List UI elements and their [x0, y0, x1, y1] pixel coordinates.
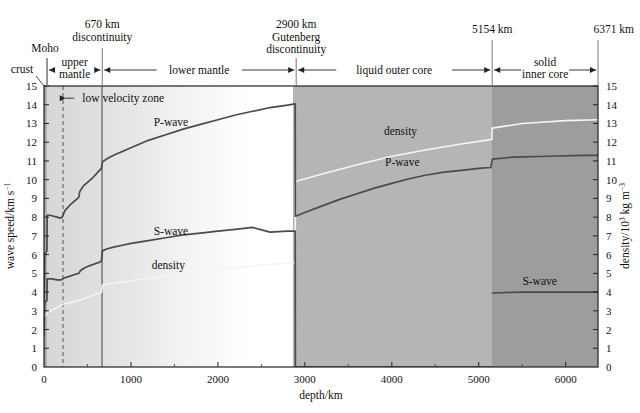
y-tick-label-right: 2	[606, 324, 612, 336]
zone-label-liquid-outer-core: liquid outer core	[356, 64, 432, 77]
x-axis-title: depth/km	[299, 389, 342, 402]
y-axis-title-left: wave speed/km s−1	[3, 182, 17, 269]
annotation-density-label-mantle: density	[152, 259, 185, 272]
zone-label-crust: crust	[11, 63, 34, 75]
y-tick-label-right: 3	[606, 305, 612, 317]
seismic-velocity-figure: 0123456789101112131415 01234567891011121…	[0, 0, 640, 413]
y-tick-label-left: 9	[32, 192, 38, 204]
y-tick-label-left: 11	[26, 155, 37, 167]
y-tick-label-left: 15	[26, 80, 38, 92]
zone-label-upper-mantle: mantle	[59, 68, 90, 80]
y-tick-label-right: 11	[606, 155, 617, 167]
y-tick-label-left: 13	[26, 117, 38, 129]
svg-text:wave speed/km s−1: wave speed/km s−1	[3, 182, 17, 269]
header-annotations: Moho670 kmdiscontinuity2900 kmGutenbergd…	[11, 18, 634, 86]
depth-label-gutenberg: 2900 km	[276, 18, 317, 30]
y-tick-label-right: 0	[606, 361, 612, 373]
x-tick-label: 4000	[381, 373, 404, 385]
x-tick-label: 5000	[468, 373, 491, 385]
y-tick-label-right: 4	[606, 286, 612, 298]
y-axis-title-right: density/103 kg m−3	[618, 183, 632, 269]
y-tick-label-left: 3	[32, 305, 38, 317]
annotation-p-wave-label-mantle: P-wave	[154, 116, 189, 128]
annotation-density-label-core: density	[384, 125, 417, 138]
crust-leader-line	[36, 76, 44, 86]
annotation-s-wave-label-core: S-wave	[522, 275, 557, 287]
x-tick-label: 2000	[207, 373, 230, 385]
y-tick-label-left: 6	[32, 249, 38, 261]
zone-backgrounds	[44, 86, 598, 367]
y-tick-label-left: 12	[26, 136, 37, 148]
y-tick-label-left: 7	[32, 230, 38, 242]
y-tick-label-right: 13	[606, 117, 618, 129]
y-tick-label-right: 1	[606, 342, 612, 354]
y-tick-label-left: 8	[32, 211, 38, 223]
depth-label-gutenberg: Gutenberg	[272, 31, 321, 44]
y-tick-label-left: 5	[32, 267, 38, 279]
annotation-s-wave-label-mantle: S-wave	[154, 225, 189, 237]
y-tick-label-right: 7	[606, 230, 612, 242]
depth-label-earth-radius: 6371 km	[593, 23, 634, 35]
depth-label-discontinuity-670: discontinuity	[72, 31, 132, 44]
y-tick-label-right: 9	[606, 192, 612, 204]
depth-label-inner-core-boundary: 5154 km	[472, 23, 513, 35]
zone-label-lower-mantle: lower mantle	[169, 64, 229, 76]
inner-core-band	[492, 86, 598, 367]
y-tick-label-left: 0	[32, 361, 38, 373]
x-tick-label: 1000	[120, 373, 143, 385]
y-axis-title-left-text: wave speed/km s	[4, 190, 17, 269]
figure-canvas: 0123456789101112131415 01234567891011121…	[0, 0, 640, 413]
zone-label-solid-inner-core: solid	[534, 56, 557, 68]
y-tick-label-left: 14	[26, 99, 38, 111]
depth-label-moho: Moho	[31, 42, 59, 54]
zone-label-solid-inner-core: inner core	[522, 68, 568, 80]
y-axis-title-right-sup2: −3	[618, 183, 627, 191]
y-tick-label-left: 1	[32, 342, 38, 354]
y-tick-label-left: 10	[26, 174, 38, 186]
y-axis-title-left-sup: −1	[3, 182, 12, 190]
depth-label-gutenberg: discontinuity	[266, 43, 326, 56]
annotation-low-velocity-zone: low velocity zone	[82, 92, 164, 105]
y-axis-title-right-a: density/10	[619, 221, 632, 269]
x-tick-label: 3000	[294, 373, 317, 385]
y-axis-title-right-b: kg m	[619, 191, 632, 217]
y-tick-label-right: 10	[606, 174, 618, 186]
x-tick-label: 6000	[555, 373, 578, 385]
y-tick-label-left: 4	[32, 286, 38, 298]
y-tick-label-right: 5	[606, 267, 612, 279]
y-tick-label-left: 2	[32, 324, 38, 336]
y-tick-label-right: 6	[606, 249, 612, 261]
y-tick-label-right: 8	[606, 211, 612, 223]
svg-text:density/103 kg m−3: density/103 kg m−3	[618, 183, 632, 269]
depth-label-discontinuity-670: 670 km	[85, 18, 120, 30]
y-tick-label-right: 12	[606, 136, 617, 148]
y-tick-label-right: 14	[606, 99, 618, 111]
x-tick-label: 0	[41, 373, 47, 385]
y-tick-label-right: 15	[606, 80, 618, 92]
annotation-p-wave-label-core: P-wave	[385, 156, 420, 168]
